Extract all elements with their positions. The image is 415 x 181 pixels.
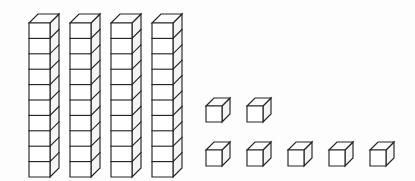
cube-front-face [247,150,263,166]
tens-rod[interactable] [152,14,182,177]
cube-front-face [288,150,304,166]
base-ten-blocks-figure: Base Ten Blocks [0,0,415,181]
cube-front-face [247,106,263,122]
unit-cube[interactable] [370,142,394,166]
unit-cube[interactable] [329,142,353,166]
cube-front-face [206,150,222,166]
tens-rod[interactable] [29,14,59,177]
blocks-canvas [0,0,415,181]
tens-rod[interactable] [111,14,141,177]
unit-cube[interactable] [247,98,271,122]
cube-front-face [206,106,222,122]
cube-front-face [370,150,386,166]
unit-cube[interactable] [288,142,312,166]
unit-cube[interactable] [206,98,230,122]
unit-cube[interactable] [247,142,271,166]
unit-cube[interactable] [206,142,230,166]
cube-front-face [329,150,345,166]
tens-rod[interactable] [70,14,100,177]
